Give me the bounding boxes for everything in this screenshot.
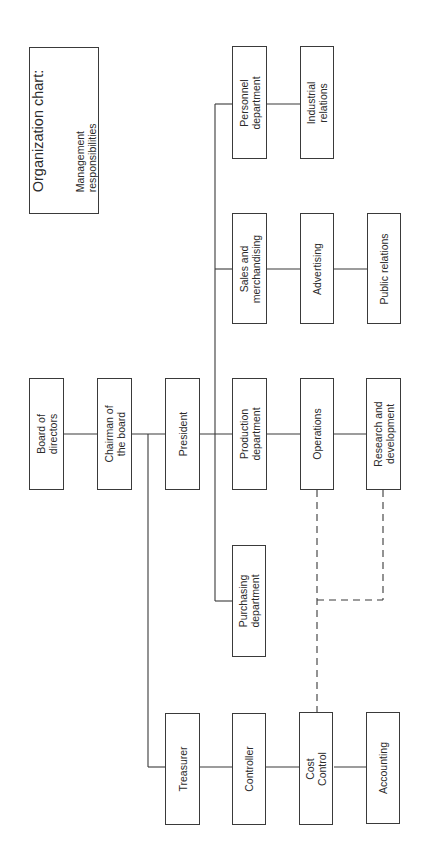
node-chairman: Chairman of the board <box>97 378 132 490</box>
node-industrial-relations: Industrial relations <box>300 46 334 159</box>
node-research-development: Research and development <box>366 378 401 490</box>
node-label: Sales and merchandising <box>238 234 262 302</box>
node-purchasing-department: Purchasing department <box>232 545 266 657</box>
chart-subtitle: Management responsibilities <box>74 69 98 192</box>
node-label: Controller <box>243 746 255 792</box>
node-label: Advertising <box>311 243 323 295</box>
node-label: Accounting <box>377 742 389 794</box>
node-label: Industrial relations <box>305 81 329 124</box>
node-advertising: Advertising <box>300 213 334 324</box>
node-president: President <box>165 378 200 490</box>
node-treasurer: Treasurer <box>165 713 200 825</box>
node-label: Production department <box>238 407 262 460</box>
node-sales-merchandising: Sales and merchandising <box>232 213 267 324</box>
organization-chart: Organization chart: Management responsib… <box>0 0 427 860</box>
node-label: Research and development <box>372 401 396 466</box>
node-label: Chairman of the board <box>103 405 127 462</box>
node-controller: Controller <box>232 713 266 825</box>
node-label: Treasurer <box>177 746 189 791</box>
chart-title: Organization chart: <box>30 69 47 192</box>
node-label: Purchasing department <box>237 574 261 627</box>
node-label: Public relations <box>378 233 390 304</box>
node-label: Cost Control <box>304 752 328 786</box>
node-label: Board of directors <box>35 414 59 454</box>
node-cost-control: Cost Control <box>299 712 333 825</box>
chart-title-box: Organization chart: Management responsib… <box>29 47 99 214</box>
node-production-department: Production department <box>232 378 267 490</box>
node-accounting: Accounting <box>366 712 400 824</box>
node-operations: Operations <box>300 378 334 490</box>
node-label: Personnel department <box>238 76 262 129</box>
node-label: President <box>177 412 189 456</box>
node-public-relations: Public relations <box>367 213 401 324</box>
node-board-of-directors: Board of directors <box>29 378 64 490</box>
chart-title-label: Organization chart: Management responsib… <box>6 69 122 192</box>
node-personnel-department: Personnel department <box>232 46 267 159</box>
node-label: Operations <box>311 408 323 459</box>
